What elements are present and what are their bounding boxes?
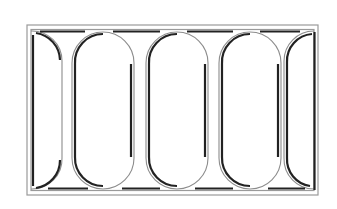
arcade-drawing: [0, 0, 337, 209]
arch-3: [219, 32, 281, 189]
half-arch-left: [31, 31, 62, 189]
half-arch-right: [284, 31, 315, 190]
arch-1: [72, 32, 134, 189]
outer-frame: [27, 25, 318, 195]
spandrels: [40, 32, 305, 189]
arch-2: [146, 32, 208, 189]
